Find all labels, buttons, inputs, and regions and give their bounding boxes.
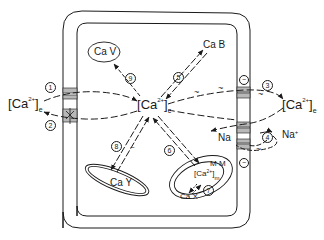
ca-mito-label: [Ca2+]m (194, 170, 219, 178)
pathway-5-marker: 5 (173, 72, 184, 83)
pathway-8-marker: 8 (111, 141, 122, 152)
cax-label: Ca X (180, 193, 198, 201)
pathway-1-arrow (44, 92, 137, 101)
ca-cytosolic-label: [Ca2+]c (137, 98, 171, 111)
negative-charge-top-right: − (239, 75, 249, 85)
pathway-4-marker: 4 (262, 132, 273, 143)
pathway-3-arrow (168, 90, 283, 104)
negative-charge-bottom-right: − (239, 158, 249, 168)
ca-extracellular-left-label: [Ca2+]e (8, 97, 43, 110)
na-out-label: Na+ (282, 130, 298, 140)
pathway-return-arrow (211, 108, 283, 131)
pathway-1-marker: 1 (45, 82, 56, 93)
pathway-2-marker: 2 (45, 120, 56, 131)
cav-label: Ca V (94, 47, 116, 57)
pathway-6-marker: 6 (164, 145, 175, 156)
svg-text:~: ~ (130, 143, 135, 152)
ca-extracellular-right-label: [Ca2+]e (282, 98, 317, 111)
svg-text:~: ~ (194, 87, 199, 97)
cay-label: Ca Y (110, 178, 132, 188)
pathway-6-arrow-up (153, 118, 195, 166)
svg-text:~: ~ (258, 89, 263, 99)
svg-text:~: ~ (256, 144, 261, 154)
pathway-2-arrow (44, 111, 137, 119)
pathway-6-arrow-down (158, 116, 199, 163)
svg-text:~: ~ (218, 83, 223, 93)
na-in-label: Na (218, 133, 231, 143)
pathway-7-marker: 7 (203, 185, 214, 196)
pathway-9-marker: 9 (125, 73, 136, 84)
pathway-3-marker: 3 (262, 80, 273, 91)
cab-label: Ca B (203, 40, 225, 50)
mm-label: M M (210, 160, 226, 168)
